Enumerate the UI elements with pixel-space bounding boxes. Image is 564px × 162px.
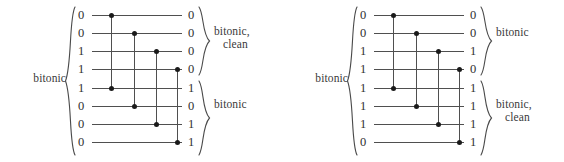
comparator-layer	[282, 0, 564, 162]
input-bit: 0	[356, 27, 370, 39]
output-bit: 0	[184, 27, 198, 39]
output-bit: 0	[466, 63, 480, 75]
input-bit: 0	[74, 118, 88, 130]
input-bit: 1	[74, 82, 88, 94]
input-bit: 0	[74, 9, 88, 21]
comparator-line	[393, 15, 394, 88]
comparator-line	[438, 51, 439, 124]
comparator-line	[111, 15, 112, 88]
comparator-endpoint-dot	[457, 67, 462, 72]
input-bit: 1	[74, 45, 88, 57]
input-bit: 0	[74, 100, 88, 112]
input-bit: 1	[356, 45, 370, 57]
bitonic-half-cleaner-figure-left: bitonic bitonic, clean bitonic 000010101…	[0, 0, 282, 162]
bitonic-sorter-figure-pair: bitonic bitonic, clean bitonic 000010101…	[0, 0, 564, 162]
comparator-endpoint-dot	[132, 31, 137, 36]
output-bit: 0	[466, 9, 480, 21]
output-bit: 1	[184, 118, 198, 130]
comparator-endpoint-dot	[436, 122, 441, 127]
input-bit: 0	[74, 27, 88, 39]
comparator-endpoint-dot	[414, 31, 419, 36]
output-bit: 0	[184, 100, 198, 112]
output-bit: 1	[466, 118, 480, 130]
comparator-endpoint-dot	[154, 122, 159, 127]
comparator-line	[177, 69, 178, 142]
output-bit: 1	[184, 82, 198, 94]
input-bit: 0	[356, 136, 370, 148]
output-bit: 1	[466, 45, 480, 57]
input-bit: 1	[356, 118, 370, 130]
comparator-line	[459, 69, 460, 142]
input-bit: 1	[356, 63, 370, 75]
output-bit: 0	[184, 9, 198, 21]
output-bit: 1	[466, 100, 480, 112]
input-bit: 0	[74, 136, 88, 148]
output-bit: 0	[184, 63, 198, 75]
comparator-endpoint-dot	[391, 13, 396, 18]
output-bit: 0	[466, 27, 480, 39]
comparator-layer	[0, 0, 282, 162]
comparator-line	[134, 33, 135, 106]
comparator-endpoint-dot	[414, 104, 419, 109]
comparator-endpoint-dot	[109, 86, 114, 91]
output-bit: 1	[466, 82, 480, 94]
comparator-endpoint-dot	[154, 49, 159, 54]
comparator-endpoint-dot	[109, 13, 114, 18]
output-bit: 0	[184, 45, 198, 57]
input-bit: 1	[356, 100, 370, 112]
comparator-line	[416, 33, 417, 106]
comparator-line	[156, 51, 157, 124]
output-bit: 1	[466, 136, 480, 148]
input-bit: 0	[356, 9, 370, 21]
comparator-endpoint-dot	[175, 67, 180, 72]
comparator-endpoint-dot	[132, 104, 137, 109]
comparator-endpoint-dot	[457, 140, 462, 145]
comparator-endpoint-dot	[175, 140, 180, 145]
input-bit: 1	[74, 63, 88, 75]
bitonic-half-cleaner-figure-right: bitonic bitonic bitonic, clean 000011101…	[282, 0, 564, 162]
comparator-endpoint-dot	[391, 86, 396, 91]
output-bit: 1	[184, 136, 198, 148]
comparator-endpoint-dot	[436, 49, 441, 54]
input-bit: 1	[356, 82, 370, 94]
